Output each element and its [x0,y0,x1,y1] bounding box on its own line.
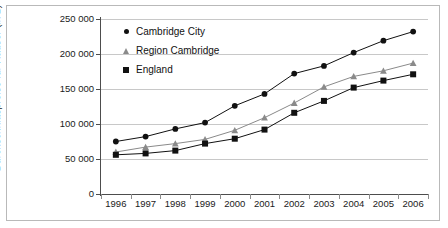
data-point-square [113,152,119,158]
data-point-circle [143,134,149,140]
data-point-triangle [291,100,298,106]
y-tick-label: 100 000 [48,119,94,129]
data-point-circle [351,50,357,56]
data-point-circle [291,71,297,77]
data-point-circle [172,126,178,132]
data-point-circle [262,91,268,97]
data-point-square [172,148,178,154]
data-point-square [262,127,268,133]
data-point-triangle [231,127,238,133]
legend-item-region-cambridge: Region Cambridge [118,41,268,60]
data-point-circle [232,103,238,109]
data-point-circle [113,139,119,145]
y-tick-label: 200 000 [48,49,94,59]
data-point-square [232,136,238,142]
legend-label: Cambridge City [136,26,205,37]
data-point-circle [381,38,387,44]
data-point-triangle [321,84,328,90]
data-point-circle [321,63,327,69]
square-marker-icon [118,67,134,73]
legend-label: Region Cambridge [136,45,219,56]
data-point-square [291,110,297,116]
legend-label: England [136,64,173,75]
x-axis-line [100,194,429,195]
circle-marker-icon [118,29,134,34]
y-tick-label: 0 [48,189,94,199]
data-point-square [410,71,416,77]
data-point-triangle [261,114,268,120]
data-point-square [202,141,208,147]
data-point-square [321,98,327,104]
y-tick-label: 250 000 [48,14,94,24]
x-tick-label: 2006 [396,199,430,209]
data-point-square [380,78,386,84]
chart-figure: Durchschnittspreise für Häuser (in £) 25… [0,0,448,228]
data-point-circle [202,120,208,126]
triangle-marker-icon [118,48,134,54]
data-point-square [351,85,357,91]
chart-legend: Cambridge City Region Cambridge England [118,22,268,79]
legend-item-cambridge-city: Cambridge City [118,22,268,41]
data-point-triangle [410,60,417,66]
y-axis-title: Durchschnittspreise für Häuser (in £) [0,5,2,172]
y-tick-label: 50 000 [48,154,94,164]
data-point-circle [410,29,416,35]
y-tick-label: 150 000 [48,84,94,94]
legend-item-england: England [118,60,268,79]
data-point-square [143,150,149,156]
